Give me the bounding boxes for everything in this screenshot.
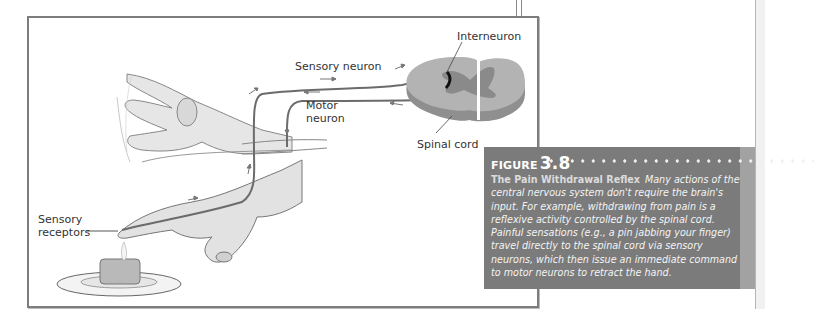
page-edge-strip (755, 0, 765, 309)
label-motor-neuron-2: neuron (306, 112, 345, 125)
label-spinal-cord: Spinal cord (417, 138, 478, 151)
label-sensory-neuron: Sensory neuron (295, 60, 381, 73)
candle-icon (57, 242, 181, 296)
page-gutter-line (516, 0, 517, 16)
label-motor-neuron-1: Motor (306, 99, 338, 112)
label-sensory-receptors-2: receptors (38, 226, 90, 239)
caption-text: The Pain Withdrawal ReflexMany actions o… (491, 173, 741, 279)
caption-body: Many actions of the central nervous syst… (491, 174, 740, 278)
reflex-illustration (29, 18, 537, 306)
figure-word: FIGURE (491, 159, 538, 172)
page-gutter-line (521, 0, 522, 16)
figure-frame: Interneuron Sensory neuron Motor neuron … (27, 16, 539, 308)
withdrawn-hand-icon (117, 74, 292, 162)
dot-rule (546, 158, 814, 164)
caption-title: The Pain Withdrawal Reflex (491, 174, 640, 185)
label-interneuron: Interneuron (457, 30, 521, 43)
caption-box-extension (740, 147, 755, 289)
spinal-cord-icon (406, 57, 525, 121)
figure-caption: FIGURE 3.8 The Pain Withdrawal ReflexMan… (484, 147, 740, 289)
label-sensory-receptors-1: Sensory (38, 213, 82, 226)
